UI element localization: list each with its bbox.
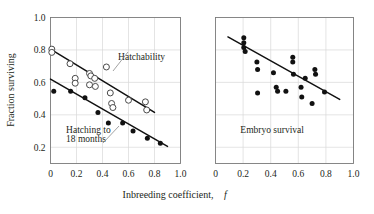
data-point bbox=[255, 67, 260, 72]
data-point bbox=[313, 72, 318, 77]
data-point bbox=[255, 90, 260, 95]
x-tick-label: 0.8 bbox=[320, 169, 332, 179]
x-tick-label: 0 bbox=[213, 169, 218, 179]
x-tick-label: 0.2 bbox=[71, 169, 83, 179]
data-point bbox=[95, 110, 100, 115]
x-tick-label: 0 bbox=[48, 169, 53, 179]
data-point bbox=[120, 120, 125, 125]
data-point bbox=[142, 99, 148, 105]
data-point bbox=[158, 141, 163, 146]
data-point bbox=[243, 49, 248, 54]
data-point bbox=[92, 83, 98, 89]
annotation-label: Hatchability bbox=[118, 52, 165, 62]
two-panel-scatter-chart: HatchabilityHatching to18 months00.20.40… bbox=[0, 0, 374, 214]
y-tick-label: 0.8 bbox=[34, 45, 46, 55]
x-tick-label: 0.2 bbox=[237, 169, 249, 179]
y-tick-label: 1.0 bbox=[34, 13, 46, 23]
data-point bbox=[254, 60, 259, 65]
y-axis-title: Fraction surviving bbox=[5, 53, 16, 127]
data-point bbox=[290, 60, 295, 65]
annotation-label: Embryo survival bbox=[240, 125, 304, 135]
data-point bbox=[291, 72, 296, 77]
data-point bbox=[49, 49, 55, 55]
data-point bbox=[290, 55, 295, 60]
data-point bbox=[103, 64, 109, 70]
data-point bbox=[51, 89, 56, 94]
x-axis-title-symbol: f bbox=[224, 189, 228, 200]
data-point bbox=[72, 80, 78, 86]
data-point bbox=[275, 89, 280, 94]
x-axis-title: Inbreeding coefficient, bbox=[123, 189, 214, 200]
x-tick-label: 1.0 bbox=[175, 169, 187, 179]
data-point bbox=[271, 70, 276, 75]
x-tick-label: 0.4 bbox=[97, 169, 109, 179]
x-tick-label: 0.8 bbox=[149, 169, 161, 179]
data-point bbox=[110, 105, 116, 111]
data-point bbox=[312, 67, 317, 72]
data-point bbox=[131, 129, 136, 134]
data-point bbox=[283, 89, 288, 94]
panel-right: Embryo survival00.20.40.60.81.0 bbox=[213, 18, 360, 179]
figure-container: HatchabilityHatching to18 months00.20.40… bbox=[0, 0, 374, 214]
data-point bbox=[67, 61, 73, 67]
data-point bbox=[144, 107, 150, 113]
data-point bbox=[303, 76, 308, 81]
data-point bbox=[68, 89, 73, 94]
panel-left: HatchabilityHatching to18 months00.20.40… bbox=[34, 13, 187, 179]
data-point bbox=[126, 97, 132, 103]
y-tick-label: 0.6 bbox=[34, 78, 46, 88]
x-tick-label: 1.0 bbox=[348, 169, 360, 179]
annotation-label: 18 months bbox=[66, 134, 106, 144]
data-point bbox=[310, 101, 315, 106]
y-tick-label: 0.2 bbox=[34, 143, 46, 153]
x-tick-label: 0.6 bbox=[123, 169, 135, 179]
y-tick-label: 0.4 bbox=[34, 110, 46, 120]
data-point bbox=[92, 75, 98, 81]
data-point bbox=[145, 136, 150, 141]
data-point bbox=[299, 94, 304, 99]
data-point bbox=[241, 40, 246, 45]
x-tick-label: 0.4 bbox=[265, 169, 277, 179]
data-point bbox=[87, 82, 93, 88]
data-point bbox=[107, 90, 113, 96]
data-point bbox=[241, 35, 246, 40]
data-point bbox=[322, 90, 327, 95]
data-point bbox=[82, 95, 87, 100]
x-tick-label: 0.6 bbox=[292, 169, 304, 179]
data-point bbox=[299, 85, 304, 90]
